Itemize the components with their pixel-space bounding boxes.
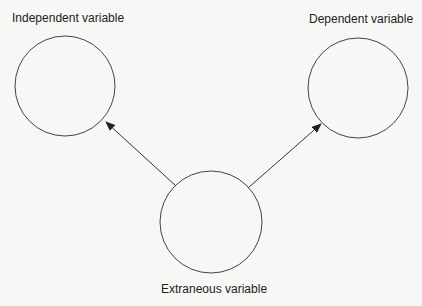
extraneous-variable-label: Extraneous variable (161, 282, 267, 296)
independent-variable-node (15, 36, 115, 136)
independent-variable-label: Independent variable (12, 11, 124, 25)
arrow-extraneous-to-dependent (248, 124, 321, 188)
dependent-variable-label: Dependent variable (309, 12, 413, 26)
extraneous-variable-node (160, 171, 262, 273)
dependent-variable-node (308, 38, 408, 138)
arrow-extraneous-to-independent (106, 122, 176, 186)
diagram-canvas (0, 0, 422, 306)
